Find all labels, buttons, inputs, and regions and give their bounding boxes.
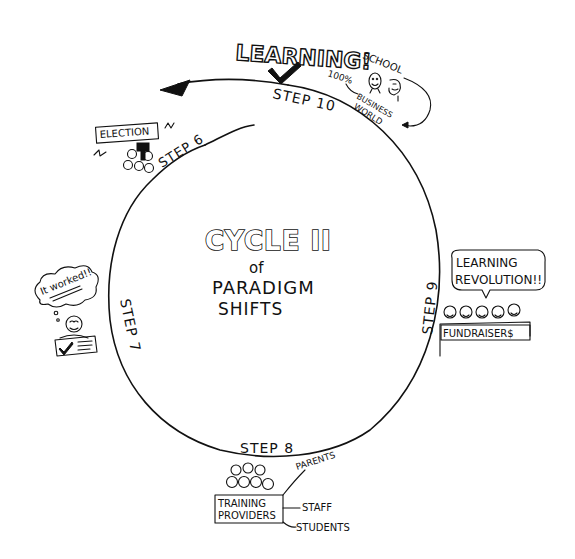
step-7-annotation: It worked!! (35, 266, 98, 356)
election-sign: ELECTION (99, 126, 149, 140)
step-8-annotation: TRAINING PROVIDERS PARENTS STAFF STUDENT… (215, 450, 350, 533)
crowd-icon (124, 150, 154, 173)
center-title: CYCLE II of PARADIGM SHIFTS (205, 226, 332, 319)
step-10-annotation: LEARNING! 100% SCHOOL BUSINESS WORLD (235, 40, 431, 128)
training-label: TRAINING (217, 498, 266, 509)
crowd-icon (227, 463, 274, 490)
school-face-icon (369, 73, 381, 93)
fundraiser-sign: FUNDRAISER$ (443, 328, 514, 339)
title-of: of (249, 259, 264, 277)
report-icon (55, 336, 97, 356)
crowd-icon (444, 304, 520, 318)
step-7-label: STEP 7 (117, 297, 144, 353)
providers-label: PROVIDERS (218, 510, 276, 521)
step-9-label: STEP 9 (419, 280, 441, 335)
step-6-label: STEP 6 (156, 131, 207, 171)
title-paradigm: PARADIGM (212, 277, 315, 298)
step-8-label: STEP 8 (240, 440, 294, 456)
step-10-label: STEP 10 (271, 85, 337, 114)
staff-label: STAFF (302, 502, 332, 513)
speech-line-1: LEARNING (456, 256, 518, 270)
step-9-annotation: LEARNING REVOLUTION!! FUNDRAISER$ (440, 250, 545, 356)
person-icon (60, 316, 88, 338)
cycle-diagram: CYCLE II of PARADIGM SHIFTS STEP 10 STEP… (0, 0, 575, 559)
thought-text: It worked!! (39, 266, 94, 297)
title-shifts: SHIFTS (218, 299, 283, 319)
students-label: STUDENTS (296, 522, 350, 533)
learning-headline: LEARNING! (235, 40, 373, 74)
business-face-icon (389, 80, 401, 102)
title-cycle: CYCLE II (205, 226, 332, 256)
arrowhead-icon (160, 80, 190, 96)
speech-line-2: REVOLUTION!! (455, 273, 542, 287)
